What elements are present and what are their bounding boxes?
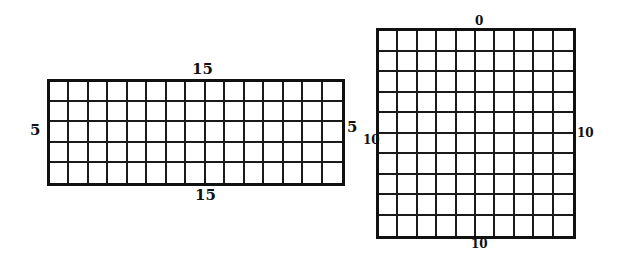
grid-cell <box>264 82 283 102</box>
grid-cell <box>554 216 573 237</box>
grid-cell <box>437 113 456 134</box>
grid-cell <box>476 31 495 52</box>
grid-cell <box>534 113 553 134</box>
grid-cell <box>108 102 127 122</box>
square-right-label: 10 <box>577 127 594 139</box>
grid-cell <box>495 195 514 216</box>
grid-cell <box>495 134 514 155</box>
grid-cell <box>89 122 108 142</box>
grid-cell <box>457 216 476 237</box>
grid-cell <box>437 154 456 175</box>
grid-cell <box>167 102 186 122</box>
grid-cell <box>50 163 69 183</box>
rect-right-label: 5 <box>347 120 357 135</box>
grid-cell <box>89 102 108 122</box>
grid-cell <box>186 143 205 163</box>
grid-cell <box>245 143 264 163</box>
grid-cell <box>186 122 205 142</box>
grid-cell <box>147 102 166 122</box>
square-bottom-label: 10 <box>471 238 488 250</box>
grid-cell <box>437 31 456 52</box>
grid-cell <box>476 93 495 114</box>
rect-bottom-label: 15 <box>195 188 216 203</box>
grid-cell <box>515 195 534 216</box>
grid-cell <box>167 143 186 163</box>
grid-cell <box>554 52 573 73</box>
grid-cell <box>147 143 166 163</box>
grid-cell <box>147 122 166 142</box>
grid-cell <box>264 122 283 142</box>
grid-cell <box>418 154 437 175</box>
grid-cell <box>457 113 476 134</box>
grid-cell <box>515 93 534 114</box>
grid-cell <box>167 82 186 102</box>
grid-cell <box>398 216 417 237</box>
grid-cell <box>515 31 534 52</box>
grid-cell <box>303 163 322 183</box>
grid-cell <box>554 31 573 52</box>
grid-cell <box>534 195 553 216</box>
grid-cell <box>534 134 553 155</box>
grid-cell <box>495 175 514 196</box>
grid-cell <box>128 143 147 163</box>
grid-cell <box>437 72 456 93</box>
grid-cell <box>284 163 303 183</box>
grid-cell <box>476 175 495 196</box>
grid-cell <box>476 52 495 73</box>
grid-cell <box>69 143 88 163</box>
grid-cell <box>245 163 264 183</box>
grid-cell <box>457 31 476 52</box>
grid-cell <box>437 93 456 114</box>
grid-cell <box>457 72 476 93</box>
grid-cell <box>69 82 88 102</box>
grid-cell <box>398 52 417 73</box>
grid-cell <box>437 195 456 216</box>
grid-cell <box>379 154 398 175</box>
grid-cell <box>495 93 514 114</box>
grid-cell <box>457 195 476 216</box>
grid-cell <box>437 52 456 73</box>
grid-cell <box>245 82 264 102</box>
grid-cell <box>398 154 417 175</box>
grid-cell <box>323 143 342 163</box>
grid-cell <box>284 82 303 102</box>
grid-cell <box>398 175 417 196</box>
grid-cell <box>225 143 244 163</box>
grid-cell <box>245 102 264 122</box>
grid-cell <box>418 195 437 216</box>
grid-cell <box>418 93 437 114</box>
grid-cell <box>476 134 495 155</box>
grid-cell <box>398 72 417 93</box>
grid-cell <box>515 175 534 196</box>
grid-cell <box>457 154 476 175</box>
grid-cell <box>515 216 534 237</box>
grid-cell <box>534 216 553 237</box>
grid-cell <box>554 195 573 216</box>
grid-cell <box>264 143 283 163</box>
grid-cell <box>437 175 456 196</box>
grid-cell <box>495 113 514 134</box>
grid-cell <box>418 113 437 134</box>
grid-cell <box>69 163 88 183</box>
grid-cell <box>284 122 303 142</box>
grid-cell <box>398 31 417 52</box>
grid-cell <box>534 72 553 93</box>
grid-cell <box>495 31 514 52</box>
grid-cell <box>89 143 108 163</box>
grid-cell <box>495 216 514 237</box>
grid-cell <box>186 163 205 183</box>
grid-cell <box>379 216 398 237</box>
grid-cell <box>147 163 166 183</box>
grid-cell <box>457 175 476 196</box>
square-grid <box>376 28 576 239</box>
grid-cell <box>303 143 322 163</box>
grid-cell <box>495 52 514 73</box>
grid-cell <box>69 102 88 122</box>
grid-cell <box>398 195 417 216</box>
grid-cell <box>495 154 514 175</box>
grid-cell <box>303 82 322 102</box>
grid-cell <box>398 134 417 155</box>
grid-cell <box>418 31 437 52</box>
grid-cell <box>225 82 244 102</box>
grid-cell <box>50 122 69 142</box>
